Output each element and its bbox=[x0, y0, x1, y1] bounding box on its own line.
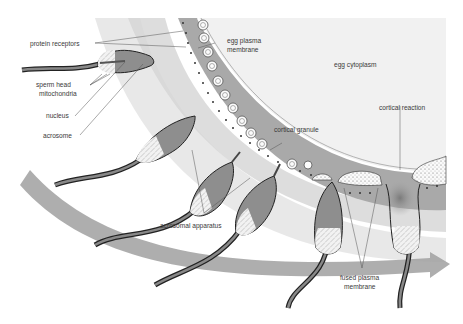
label-egg-plasma-membrane-1: egg plasma bbox=[227, 37, 261, 45]
label-egg-cytoplasm: egg cytoplasm bbox=[334, 61, 377, 69]
label-cortical-granule: cortical granule bbox=[274, 126, 319, 134]
label-nucleus: nucleus bbox=[46, 112, 69, 119]
label-fused-plasma-membrane-2: membrane bbox=[344, 283, 376, 290]
label-mitochondria: mitochondria bbox=[39, 90, 77, 97]
fertilization-diagram: protein receptors sperm head mitochondri… bbox=[0, 0, 463, 324]
sperm-1 bbox=[22, 50, 154, 74]
label-sperm-head: sperm head bbox=[36, 81, 71, 89]
label-cortical-reaction: cortical reaction bbox=[379, 104, 426, 111]
sperm-2 bbox=[55, 116, 195, 185]
label-protein-receptors: protein receptors bbox=[30, 40, 80, 48]
label-acrosomal-apparatus: acrosomal apparatus bbox=[160, 222, 222, 230]
label-egg-plasma-membrane-2: membrane bbox=[227, 46, 259, 53]
label-acrosome: acrosome bbox=[43, 132, 72, 139]
label-fused-plasma-membrane-1: fused plasma bbox=[340, 274, 380, 282]
